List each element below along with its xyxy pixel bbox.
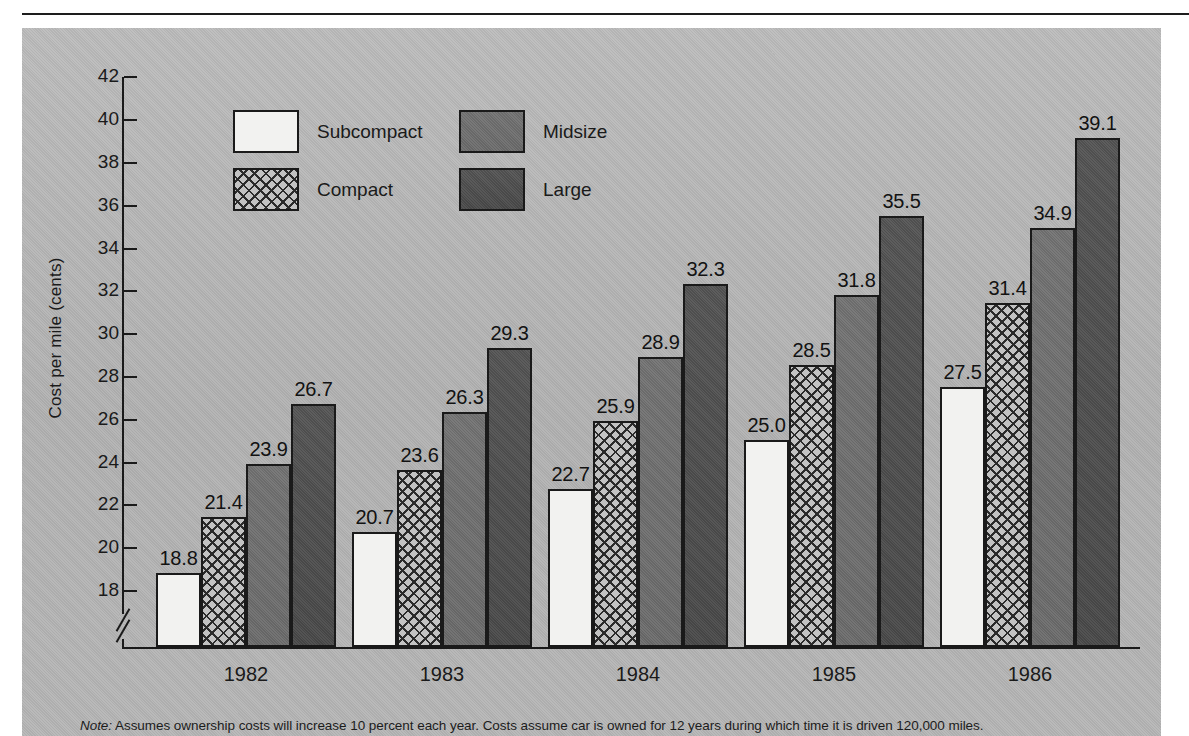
- x-axis-label-1986: 1986: [1008, 663, 1053, 686]
- bar-compact-1986[interactable]: [985, 303, 1030, 647]
- bar-compact-1985[interactable]: [789, 365, 834, 647]
- bar-value-label: 21.4: [204, 491, 242, 514]
- y-tick: 26: [74, 419, 137, 421]
- bar-value-label: 27.5: [943, 361, 981, 384]
- y-tick-label: 20: [79, 537, 119, 556]
- y-tick-mark: [124, 76, 137, 78]
- x-axis-label-1982: 1982: [224, 663, 269, 686]
- header-rule: [22, 13, 1189, 15]
- bar-value-label: 29.3: [490, 322, 528, 345]
- bar-subcompact-1982[interactable]: [156, 573, 201, 647]
- note-label: Note:: [80, 718, 112, 733]
- y-tick: 20: [74, 547, 137, 549]
- bar-large-1985[interactable]: [879, 216, 924, 648]
- bar-compact-1984[interactable]: [593, 421, 638, 647]
- bar-value-label: 23.9: [249, 438, 287, 461]
- y-tick-mark: [124, 462, 137, 464]
- y-tick-mark: [124, 205, 137, 207]
- plot-area: 42403836343230282624222018 Cost per mile…: [22, 28, 1161, 736]
- y-tick-mark: [124, 419, 137, 421]
- bar-large-1986[interactable]: [1075, 138, 1120, 647]
- y-tick: 42: [74, 76, 137, 78]
- bar-subcompact-1985[interactable]: [744, 440, 789, 647]
- bar-value-label: 32.3: [686, 258, 724, 281]
- bar-group-1985: 25.028.531.835.51985: [744, 87, 924, 647]
- y-tick-label: 36: [79, 195, 119, 214]
- bar-value-label: 26.3: [445, 386, 483, 409]
- bar-value-label: 34.9: [1033, 202, 1071, 225]
- y-tick-mark: [124, 290, 137, 292]
- y-tick-mark: [124, 333, 137, 335]
- bar-group-1983: 20.723.626.329.31983: [352, 87, 532, 647]
- bar-midsize-1982[interactable]: [246, 464, 291, 647]
- bar-group-1982: 18.821.423.926.71982: [156, 87, 336, 647]
- x-axis-label-1985: 1985: [812, 663, 857, 686]
- bar-compact-1983[interactable]: [397, 470, 442, 647]
- y-tick: 28: [74, 376, 137, 378]
- x-axis-label-1983: 1983: [420, 663, 465, 686]
- bar-midsize-1986[interactable]: [1030, 228, 1075, 647]
- bar-value-label: 35.5: [882, 190, 920, 213]
- y-tick: 40: [74, 119, 137, 121]
- y-tick-label: 38: [79, 152, 119, 171]
- bar-group-1984: 22.725.928.932.31984: [548, 87, 728, 647]
- x-axis-label-1984: 1984: [616, 663, 661, 686]
- y-tick-mark: [124, 590, 137, 592]
- y-axis-title: Cost per mile (cents): [46, 228, 66, 448]
- axis-break-icon: [110, 610, 138, 642]
- y-tick: 24: [74, 462, 137, 464]
- y-tick-mark: [124, 162, 137, 164]
- y-axis-line: [122, 77, 124, 623]
- y-tick-label: 26: [79, 409, 119, 428]
- bar-midsize-1984[interactable]: [638, 357, 683, 647]
- bar-subcompact-1984[interactable]: [548, 489, 593, 647]
- bar-value-label: 23.6: [400, 444, 438, 467]
- bar-value-label: 25.0: [747, 414, 785, 437]
- y-tick: 32: [74, 290, 137, 292]
- bar-value-label: 39.1: [1078, 112, 1116, 135]
- y-tick: 18: [74, 590, 137, 592]
- note-text: Assumes ownership costs will increase 10…: [112, 718, 983, 733]
- bar-value-label: 28.5: [792, 339, 830, 362]
- bar-large-1984[interactable]: [683, 284, 728, 647]
- y-tick-label: 24: [79, 452, 119, 471]
- y-tick-label: 42: [79, 66, 119, 85]
- y-tick: 38: [74, 162, 137, 164]
- y-tick-mark: [124, 248, 137, 250]
- y-tick-label: 32: [79, 280, 119, 299]
- y-tick-label: 22: [79, 494, 119, 513]
- bar-value-label: 31.8: [837, 269, 875, 292]
- bar-value-label: 25.9: [596, 395, 634, 418]
- figure-panel: 42403836343230282624222018 Cost per mile…: [22, 28, 1161, 736]
- bar-value-label: 20.7: [355, 506, 393, 529]
- y-tick-label: 18: [79, 580, 119, 599]
- bar-midsize-1983[interactable]: [442, 412, 487, 647]
- bar-subcompact-1986[interactable]: [940, 387, 985, 647]
- bar-value-label: 31.4: [988, 277, 1026, 300]
- x-axis-line: [122, 647, 1140, 649]
- bar-value-label: 26.7: [294, 378, 332, 401]
- bar-midsize-1985[interactable]: [834, 295, 879, 647]
- bar-large-1983[interactable]: [487, 348, 532, 647]
- bar-value-label: 28.9: [641, 331, 679, 354]
- bar-large-1982[interactable]: [291, 404, 336, 647]
- bar-compact-1982[interactable]: [201, 517, 246, 647]
- y-tick-label: 28: [79, 366, 119, 385]
- y-tick-label: 30: [79, 323, 119, 342]
- y-tick-mark: [124, 504, 137, 506]
- figure-note: Note: Assumes ownership costs will incre…: [80, 718, 1150, 734]
- y-tick-label: 40: [79, 109, 119, 128]
- bar-subcompact-1983[interactable]: [352, 532, 397, 647]
- y-tick-mark: [124, 376, 137, 378]
- y-tick: 30: [74, 333, 137, 335]
- y-tick-mark: [124, 119, 137, 121]
- y-tick-label: 34: [79, 238, 119, 257]
- y-tick: 22: [74, 504, 137, 506]
- y-tick-mark: [124, 547, 137, 549]
- bar-value-label: 18.8: [159, 547, 197, 570]
- y-tick: 34: [74, 248, 137, 250]
- bar-value-label: 22.7: [551, 463, 589, 486]
- y-tick: 36: [74, 205, 137, 207]
- bar-group-1986: 27.531.434.939.11986: [940, 87, 1120, 647]
